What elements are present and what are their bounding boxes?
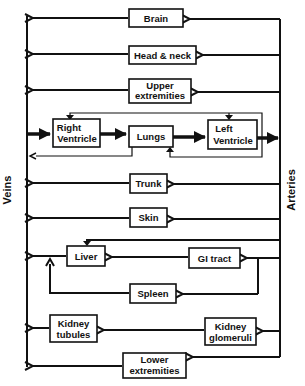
svg-text:Lower: Lower bbox=[141, 354, 169, 365]
kidney-tubules-box: Kidney tubules bbox=[50, 315, 97, 342]
svg-text:Left: Left bbox=[215, 123, 233, 134]
kidney-glomeruli-box: Kidney glomeruli bbox=[205, 318, 256, 345]
liver-box: Liver bbox=[67, 246, 105, 266]
skin-box: Skin bbox=[130, 208, 167, 227]
svg-text:Ventricle: Ventricle bbox=[57, 133, 97, 144]
svg-text:Trunk: Trunk bbox=[136, 178, 163, 189]
svg-text:glomeruli: glomeruli bbox=[209, 332, 252, 343]
svg-text:Brain: Brain bbox=[144, 13, 168, 24]
veins-label: Veins bbox=[1, 176, 13, 205]
svg-text:extremities: extremities bbox=[135, 90, 185, 101]
svg-text:GI tract: GI tract bbox=[198, 253, 232, 264]
arteries-label: Arteries bbox=[285, 169, 297, 211]
svg-text:Head & neck: Head & neck bbox=[134, 50, 192, 61]
lungs-box: Lungs bbox=[129, 126, 173, 147]
circulation-diagram: Brain Head & neck Upper extremities bbox=[0, 0, 305, 386]
svg-text:tubules: tubules bbox=[57, 329, 91, 340]
gi-tract-box: GI tract bbox=[189, 248, 240, 268]
trunk-box: Trunk bbox=[130, 174, 167, 193]
svg-text:extremities: extremities bbox=[129, 365, 179, 376]
svg-text:Kidney: Kidney bbox=[215, 321, 247, 332]
svg-text:Right: Right bbox=[57, 122, 82, 133]
svg-text:Ventricle: Ventricle bbox=[213, 135, 253, 146]
svg-text:Liver: Liver bbox=[75, 251, 98, 262]
brain-box: Brain bbox=[129, 9, 183, 27]
svg-text:Lungs: Lungs bbox=[137, 131, 166, 142]
spleen-box: Spleen bbox=[130, 284, 176, 303]
svg-text:Kidney: Kidney bbox=[58, 318, 90, 329]
upper-extremities-box: Upper extremities bbox=[129, 79, 191, 103]
lower-extremities-box: Lower extremities bbox=[123, 353, 186, 378]
head-neck-box: Head & neck bbox=[129, 46, 196, 64]
svg-text:Spleen: Spleen bbox=[137, 288, 168, 299]
left-ventricle-box: Left Ventricle bbox=[208, 120, 257, 149]
svg-text:Skin: Skin bbox=[138, 212, 158, 223]
right-ventricle-box: Right Ventricle bbox=[53, 119, 100, 147]
